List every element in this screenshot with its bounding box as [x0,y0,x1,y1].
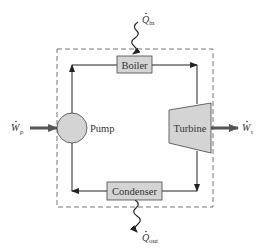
q-in-dot [145,13,147,15]
condenser: Condenser [107,182,162,200]
rankine-cycle-diagram: Boiler Condenser Turbine Pump Q in Q out… [0,0,262,250]
turbine: Turbine [169,103,211,153]
turbine-label: Turbine [174,123,207,134]
q-in-label: Q in [142,13,155,27]
q-out-label: Q out [142,231,158,245]
heat-out-wavy-arrow [134,200,141,232]
w-t-label: W t [242,121,253,136]
q-in-subscript: in [149,19,155,27]
q-out-dot [145,231,147,233]
w-t-subscript: t [251,128,253,136]
w-t-dot [246,121,248,123]
pump [57,113,87,143]
condenser-label: Condenser [112,186,157,197]
pump-label: Pump [90,123,115,134]
w-p-subscript: p [20,128,24,136]
boiler-label: Boiler [121,60,148,71]
q-out-subscript: out [149,237,158,245]
w-p-label: W p [11,121,24,136]
w-p-dot [15,121,17,123]
boiler: Boiler [117,56,152,73]
